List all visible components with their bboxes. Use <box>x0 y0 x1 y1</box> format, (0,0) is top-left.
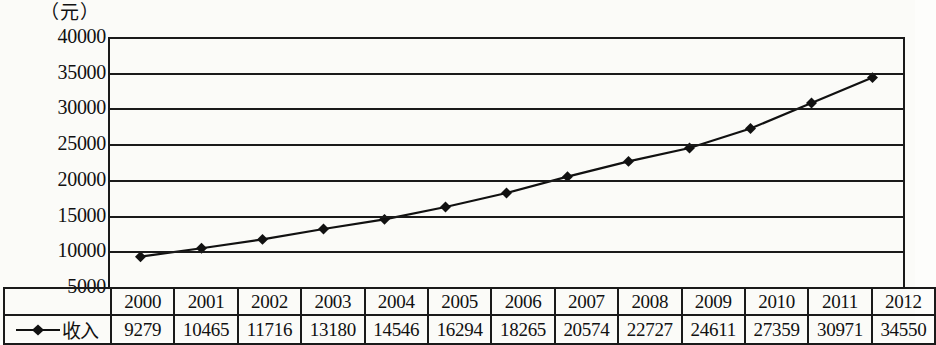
gridline <box>110 251 903 253</box>
data-point-marker <box>806 98 817 109</box>
data-point-marker <box>745 123 756 134</box>
value-cell: 14546 <box>365 315 428 344</box>
y-tick-label: 40000 <box>22 26 106 46</box>
y-tick-label: 35000 <box>22 62 106 82</box>
legend-cell: 收入 <box>4 315 111 344</box>
year-header-cell: 2009 <box>682 288 745 315</box>
year-header-cell: 2007 <box>555 288 618 315</box>
value-cell: 20574 <box>555 315 618 344</box>
income-series-line <box>110 39 903 287</box>
y-tick-label: 25000 <box>22 133 106 153</box>
gridline <box>110 144 903 146</box>
year-header-cell: 2005 <box>428 288 491 315</box>
data-table: 2000200120022003200420052006200720082009… <box>3 287 936 345</box>
data-point-marker <box>257 234 268 245</box>
value-cell: 24611 <box>682 315 745 344</box>
data-point-marker <box>440 202 451 213</box>
y-tick-label: 10000 <box>22 240 106 260</box>
plot-area <box>108 37 905 287</box>
table-corner-blank <box>4 288 111 315</box>
year-header-cell: 2006 <box>491 288 554 315</box>
year-header-cell: 2010 <box>745 288 808 315</box>
value-cell: 34550 <box>872 315 935 344</box>
year-header-cell: 2001 <box>174 288 237 315</box>
value-cell: 27359 <box>745 315 808 344</box>
y-axis-unit-caption: （元） <box>40 2 100 22</box>
gridline <box>110 73 903 75</box>
year-header-cell: 2008 <box>618 288 681 315</box>
year-header-cell: 2004 <box>365 288 428 315</box>
year-header-cell: 2011 <box>808 288 871 315</box>
year-header-cell: 2000 <box>111 288 174 315</box>
y-tick-label: 15000 <box>22 205 106 225</box>
data-point-marker <box>318 224 329 235</box>
year-header-cell: 2003 <box>301 288 364 315</box>
y-axis-tick-labels: 400003500030000250002000015000100005000 <box>22 26 106 298</box>
plot-inner <box>110 39 903 287</box>
legend-line-diamond-icon <box>16 324 60 336</box>
gridline <box>110 216 903 218</box>
gridline <box>110 180 903 182</box>
value-cell: 11716 <box>238 315 301 344</box>
y-tick-label: 20000 <box>22 169 106 189</box>
value-cell: 10465 <box>174 315 237 344</box>
value-cell: 13180 <box>301 315 364 344</box>
data-point-marker <box>501 188 512 199</box>
table-row-years: 2000200120022003200420052006200720082009… <box>4 288 935 315</box>
year-header-cell: 2012 <box>872 288 935 315</box>
value-cell: 18265 <box>491 315 554 344</box>
legend-label: 收入 <box>62 316 99 343</box>
table-row-values: 收入 9279104651171613180145461629418265205… <box>4 315 935 344</box>
value-cell: 22727 <box>618 315 681 344</box>
data-point-marker <box>623 156 634 167</box>
gridline <box>110 108 903 110</box>
y-tick-label: 30000 <box>22 97 106 117</box>
year-header-cell: 2002 <box>238 288 301 315</box>
value-cell: 16294 <box>428 315 491 344</box>
series-line <box>141 78 873 257</box>
value-cell: 9279 <box>111 315 174 344</box>
value-cell: 30971 <box>808 315 871 344</box>
